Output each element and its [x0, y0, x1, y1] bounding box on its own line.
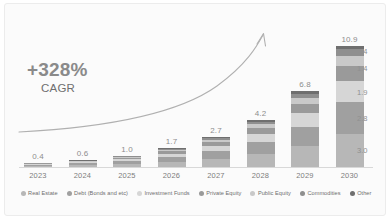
legend-item[interactable]: Real Estate [21, 190, 58, 196]
bar-stack[interactable] [113, 156, 141, 167]
bar-stack[interactable] [247, 120, 275, 167]
bar-total-label: 6.8 [288, 80, 322, 89]
bar-group[interactable]: 1.02025 [110, 4, 144, 182]
x-axis-label: 2028 [244, 171, 278, 180]
x-axis-label: 2030 [333, 171, 367, 180]
bar-group[interactable]: 1.72026 [155, 4, 189, 182]
bar-group[interactable]: 6.82029 [288, 4, 322, 182]
bar-group[interactable]: 0.62024 [66, 4, 100, 182]
bar-stack[interactable] [24, 163, 52, 167]
legend-item-label: Commodities [307, 190, 340, 196]
bar-stack[interactable] [158, 148, 186, 167]
bar-group[interactable]: 4.22028 [244, 4, 278, 182]
bar-segment[interactable] [24, 166, 52, 167]
bar-segment[interactable] [291, 127, 319, 146]
segment-callout-label: 1.4 [357, 47, 379, 56]
bar-total-label: 1.7 [155, 137, 189, 146]
bar-total-label: 10.9 [333, 35, 367, 44]
bar-total-label: 2.7 [199, 126, 233, 135]
chart-legend: Real EstateDebt (Bonds and etc)Investmen… [5, 190, 386, 196]
bar-segment[interactable] [247, 142, 275, 154]
legend-item-label: Other [357, 190, 371, 196]
bar-total-label: 0.4 [21, 152, 55, 161]
chart-card: +328% CAGR 0.420230.620241.020251.720262… [4, 3, 386, 216]
legend-color-dot-icon [199, 191, 204, 196]
x-axis-label: 2025 [110, 171, 144, 180]
bar-segment[interactable] [247, 134, 275, 142]
legend-item[interactable]: Private Equity [199, 190, 242, 196]
bar-segment[interactable] [291, 113, 319, 126]
bar-segment[interactable] [291, 104, 319, 113]
segment-callout-label: 3.0 [357, 146, 379, 155]
legend-item-label: Public Equity [258, 190, 291, 196]
legend-item-label: Real Estate [28, 190, 57, 196]
bar-segment[interactable] [202, 151, 230, 159]
legend-item-label: Investment Funds [144, 190, 189, 196]
bar-segment[interactable] [158, 162, 186, 167]
segment-callout-label: 1.9 [357, 88, 379, 97]
legend-item-label: Debt (Bonds and etc) [74, 190, 128, 196]
bar-segment[interactable] [202, 159, 230, 167]
bar-segment[interactable] [291, 146, 319, 167]
legend-item[interactable]: Commodities [300, 190, 341, 196]
bar-stack[interactable] [69, 160, 97, 167]
bar-total-label: 1.0 [110, 145, 144, 154]
legend-item[interactable]: Investment Funds [137, 190, 190, 196]
bar-segment[interactable] [69, 165, 97, 167]
bar-stack[interactable] [202, 137, 230, 167]
bar-segment[interactable] [247, 154, 275, 167]
plot-area: +328% CAGR 0.420230.620241.020251.720262… [5, 4, 386, 182]
legend-color-dot-icon [137, 191, 142, 196]
legend-item-label: Private Equity [206, 190, 241, 196]
x-axis-label: 2029 [288, 171, 322, 180]
x-axis-label: 2027 [199, 171, 233, 180]
bar-stack[interactable] [291, 91, 319, 167]
legend-color-dot-icon [350, 191, 355, 196]
bar-group[interactable]: 0.42023 [21, 4, 55, 182]
bar-segment[interactable] [113, 164, 141, 167]
segment-callout-label: 1.4 [357, 64, 379, 73]
legend-item[interactable]: Debt (Bonds and etc) [67, 190, 128, 196]
legend-color-dot-icon [67, 191, 72, 196]
legend-item[interactable]: Public Equity [250, 190, 291, 196]
segment-callout-label: 2.8 [357, 114, 379, 123]
bar-total-label: 0.6 [66, 149, 100, 158]
legend-color-dot-icon [300, 191, 305, 196]
legend-item[interactable]: Other [350, 190, 372, 196]
legend-color-dot-icon [21, 191, 26, 196]
x-axis-label: 2024 [66, 171, 100, 180]
legend-color-dot-icon [250, 191, 255, 196]
x-axis-label: 2023 [21, 171, 55, 180]
x-axis-label: 2026 [155, 171, 189, 180]
bar-total-label: 4.2 [244, 109, 278, 118]
bar-group[interactable]: 2.72027 [199, 4, 233, 182]
